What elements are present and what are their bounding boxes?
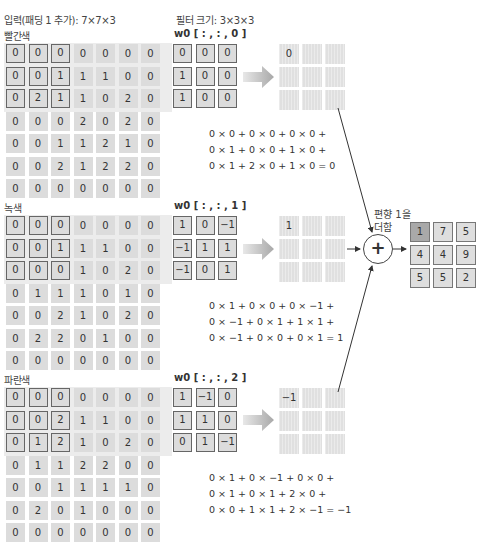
bias-label-line2: 더함 (374, 221, 392, 235)
output-cell: 2 (456, 268, 476, 288)
output-cell: 4 (433, 245, 453, 265)
big-arrow-icon (243, 409, 274, 431)
bias-label-line1: 편향 1을 (374, 208, 411, 222)
big-arrow-icon (243, 66, 274, 88)
big-arrow-icon (243, 238, 274, 260)
output-cell: 1 (410, 222, 430, 242)
sum-plus-icon: + (363, 234, 393, 264)
output-cell: 5 (433, 268, 453, 288)
output-cell: 5 (410, 268, 430, 288)
output-cell: 7 (433, 222, 453, 242)
output-cell: 9 (456, 245, 476, 265)
output-cell: 4 (410, 245, 430, 265)
output-cell: 5 (456, 222, 476, 242)
